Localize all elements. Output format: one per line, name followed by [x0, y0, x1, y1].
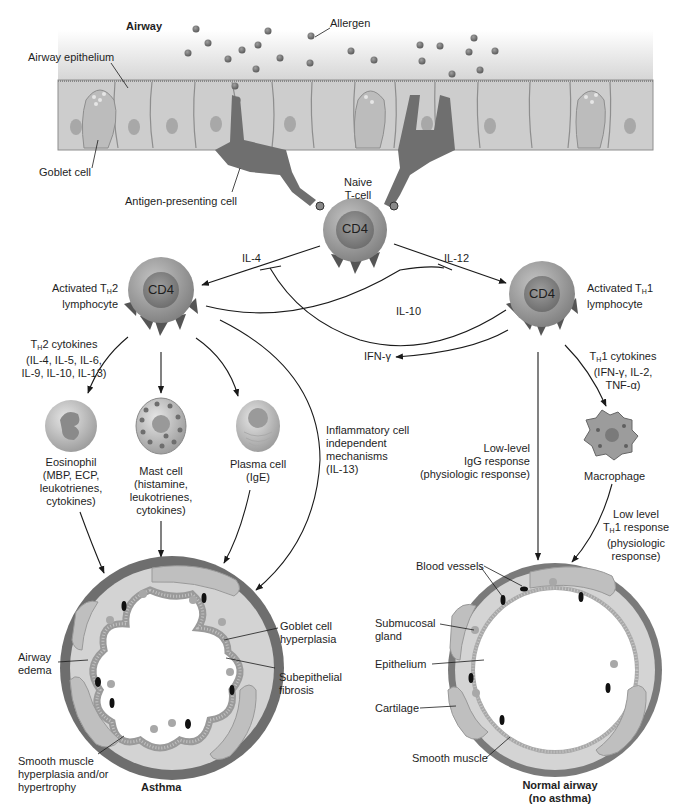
lowth1-l3: (physiologic	[596, 537, 676, 550]
subepithelial-fibrosis-label: Subepithelial fibrosis	[279, 671, 342, 697]
asthma-title: Asthma	[141, 781, 181, 794]
goblet-hyperplasia-label: Goblet cell hyperplasia	[280, 620, 336, 646]
inflammatory-independent-label: Inflammatory cell independent mechanisms…	[326, 424, 409, 476]
smh-l2: hyperplasia and/or	[18, 768, 109, 781]
airway-title: Airway	[126, 20, 162, 33]
normal-title-l2: (no asthma)	[510, 792, 610, 805]
asthma-airway-cross-section	[60, 556, 284, 780]
epithelium-label: Epithelium	[375, 658, 426, 671]
th1-label-post: 1	[647, 282, 653, 294]
th2-label-post: 2	[112, 282, 118, 294]
macrophage-label: Macrophage	[584, 470, 645, 483]
th1-label-pre: Activated T	[587, 282, 642, 294]
airway-epithelium	[58, 80, 653, 150]
smh-l1: Smooth muscle	[18, 755, 109, 768]
mast-l4: cytokines)	[116, 504, 206, 517]
infl-l4: (IL-13)	[326, 463, 409, 476]
th2-label-pre: Activated T	[52, 282, 107, 294]
il10-label: IL-10	[396, 305, 421, 318]
igg-l1: Low-level	[418, 442, 530, 455]
lowth1-l4: response)	[596, 550, 676, 563]
th2cyt-line3: IL-9, IL-10, IL-13)	[14, 367, 114, 380]
plasma-cell	[236, 400, 280, 452]
th1-label-line2: lymphocyte	[587, 298, 653, 311]
airway-lumen	[58, 30, 653, 82]
normal-title-l1: Normal airway	[510, 779, 610, 792]
th2-cytokines-label: TH2 cytokines (IL-4, IL-5, IL-6, IL-9, I…	[14, 338, 114, 380]
mast-l1: Mast cell	[116, 465, 206, 478]
goblet-cell-label: Goblet cell	[39, 166, 91, 179]
gh-l1: Goblet cell	[280, 620, 336, 633]
eos-l2: (MBP, ECP,	[26, 469, 116, 482]
th1cyt-line2: (IFN-γ, IL-2,	[580, 366, 666, 379]
infl-l3: mechanisms	[326, 450, 409, 463]
normal-airway-cross-section	[448, 563, 662, 777]
goblet-cell	[82, 90, 116, 148]
sg-l1: Submucosal	[375, 617, 436, 630]
eosinophil-cell	[45, 400, 97, 452]
airway-epithelium-label: Airway epithelium	[28, 51, 114, 64]
low-th1-response-label: Low level TH1 response (physiologic resp…	[596, 508, 676, 563]
smooth-muscle-label: Smooth muscle	[412, 752, 488, 765]
th1-cd4-marker: CD4	[522, 287, 562, 300]
th1-cell-label: Activated TH1 lymphocyte	[587, 282, 653, 311]
il4-label: IL-4	[242, 252, 261, 265]
infl-l2: independent	[326, 437, 409, 450]
sf-l1: Subepithelial	[279, 671, 342, 684]
normal-airway-title: Normal airway (no asthma)	[510, 779, 610, 805]
naive-t-cell	[316, 198, 398, 274]
mast-l2: (histamine,	[116, 478, 206, 491]
lowth1-post: 1 response	[615, 521, 669, 533]
igg-response-label: Low-level IgG response (physiologic resp…	[418, 442, 530, 481]
plasma-l1: Plasma cell	[218, 458, 298, 471]
mast-l3: leukotrienes,	[116, 491, 206, 504]
mast-cell	[136, 398, 186, 454]
th2-cd4-marker: CD4	[141, 283, 181, 296]
naive-line2: T-cell	[338, 189, 378, 202]
blood-vessels-label: Blood vessels	[416, 560, 484, 573]
smooth-muscle-hyperplasia-label: Smooth muscle hyperplasia and/or hypertr…	[18, 755, 109, 794]
airway-edema-label: Airway edema	[18, 651, 52, 677]
lowth1-pre: T	[603, 521, 610, 533]
plasma-l2: (IgE)	[218, 471, 298, 484]
smh-l3: hypertrophy	[18, 781, 109, 794]
apc-label: Antigen-presenting cell	[125, 195, 237, 208]
naive-line1: Naive	[338, 176, 378, 189]
cartilage-label: Cartilage	[375, 702, 419, 715]
naive-t-cell-label: Naive T-cell	[338, 176, 378, 202]
sf-l2: fibrosis	[279, 684, 342, 697]
gh-l2: hyperplasia	[280, 633, 336, 646]
ae-l2: edema	[18, 664, 52, 677]
th1cyt-line3: TNF-α)	[580, 379, 666, 392]
plasma-cell-label: Plasma cell (IgE)	[218, 458, 298, 484]
eos-l4: cytokines)	[26, 495, 116, 508]
asthma-pathway-diagram: Airway Allergen Airway epithelium Goblet…	[0, 0, 683, 808]
ifn-gamma-label: IFN-γ	[364, 350, 391, 363]
infl-l1: Inflammatory cell	[326, 424, 409, 437]
eosinophil-label: Eosinophil (MBP, ECP, leukotrienes, cyto…	[26, 456, 116, 508]
th1-cytokines-label: TH1 cytokines (IFN-γ, IL-2, TNF-α)	[580, 350, 666, 392]
th2-cell-label: Activated TH2 lymphocyte	[40, 282, 118, 311]
eos-l3: leukotrienes,	[26, 482, 116, 495]
th1cyt-post: 1 cytokines	[601, 350, 656, 362]
macrophage-cell	[584, 410, 638, 460]
sg-l2: gland	[375, 630, 436, 643]
ae-l1: Airway	[18, 651, 52, 664]
mast-cell-label: Mast cell (histamine, leukotrienes, cyto…	[116, 465, 206, 517]
igg-l2: IgG response	[418, 455, 530, 468]
th2cyt-line2: (IL-4, IL-5, IL-6,	[14, 354, 114, 367]
eos-l1: Eosinophil	[26, 456, 116, 469]
th2cyt-post: 2 cytokines	[42, 338, 97, 350]
allergen-label: Allergen	[330, 17, 370, 30]
naive-cd4-marker: CD4	[335, 222, 375, 235]
lowth1-l1: Low level	[596, 508, 676, 521]
il12-label: IL-12	[444, 252, 469, 265]
igg-l3: (physiologic response)	[418, 468, 530, 481]
submucosal-gland-label: Submucosal gland	[375, 617, 436, 643]
th2-label-line2: lymphocyte	[40, 298, 118, 311]
